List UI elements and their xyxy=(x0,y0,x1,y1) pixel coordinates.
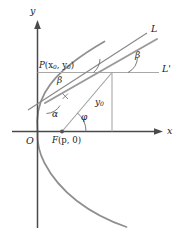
parabola-upper-branch xyxy=(37,42,104,132)
angle-phi-label: φ xyxy=(81,113,87,122)
point-p-label-args: (x0, y0) xyxy=(45,60,74,70)
focal-radius xyxy=(62,73,112,132)
angle-beta-p-label: β xyxy=(57,76,62,85)
focus-label: F(p, 0) xyxy=(52,136,81,145)
focus-label-args: (p, 0) xyxy=(58,135,81,145)
x-axis-label: x xyxy=(167,126,172,136)
diagram-canvas xyxy=(0,0,183,240)
parabola-lower-branch xyxy=(37,132,126,228)
origin-label: O xyxy=(26,136,34,146)
x-axis-arrowhead xyxy=(154,128,163,135)
y-axis-label: y xyxy=(30,6,35,16)
point-p-label: P(x0, y0) xyxy=(39,61,74,71)
parabola-diagram: y x O F(p, 0) P(x0, y0) L L' y0 α β β φ xyxy=(0,0,183,240)
focus-point-marker xyxy=(60,130,64,134)
angle-beta-right-label: β xyxy=(135,51,140,60)
line-l-prime-label: L' xyxy=(162,64,171,74)
ordinate-label: y0 xyxy=(95,98,104,107)
point-p-y: y0 xyxy=(62,60,71,70)
y-axis-arrowhead xyxy=(34,20,41,29)
point-p-x: x0 xyxy=(48,60,57,70)
line-l-label: L xyxy=(151,24,157,34)
angle-alpha-label: α xyxy=(52,110,58,119)
